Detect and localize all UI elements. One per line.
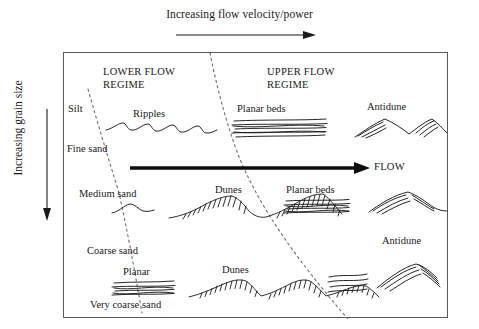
grain-size-label-medium-sand: Medium sand: [79, 188, 136, 200]
top-axis-arrow-icon: [175, 28, 320, 42]
left-axis-arrow-icon: [40, 108, 54, 224]
bedform-phase-diagram: Increasing flow velocity/power Increasin…: [0, 0, 479, 329]
bedform-label-planar-beds-1: Planar beds: [237, 103, 286, 115]
bedform-label-antidune-2: Antidune: [382, 235, 421, 247]
bedform-sketch-dunes-1: [169, 194, 342, 219]
grain-size-label-coarse-sand: Coarse sand: [87, 245, 138, 257]
flow-arrow-icon: [130, 162, 370, 174]
bedform-label-planar-3: Planar: [123, 266, 150, 278]
bedform-sketch-dunes-2: [189, 280, 379, 299]
bedform-sketch-planar-3: [112, 281, 175, 295]
bedform-label-dunes-1: Dunes: [215, 184, 242, 196]
bedform-sketch-small-ripple: [112, 204, 154, 213]
grain-size-label-very-coarse-sand: Very coarse sand: [90, 299, 161, 311]
grain-size-label-fine-sand: Fine sand: [67, 143, 108, 155]
top-axis-label: Increasing flow velocity/power: [0, 8, 479, 20]
left-axis-label-wrap: Increasing grain size: [12, 28, 24, 228]
flow-label: FLOW: [374, 161, 405, 173]
bedform-sketch-antidune-2: [369, 192, 447, 214]
diagram-canvas: [64, 53, 449, 319]
grain-size-label-silt: Silt: [68, 103, 83, 115]
upper-flow-regime-label: UPPER FLOW REGIME: [267, 65, 335, 91]
bedform-sketch-antidune-3: [377, 264, 440, 291]
bedform-label-planar-beds-2: Planar beds: [286, 184, 335, 196]
diagram-frame: LOWER FLOW REGIME UPPER FLOW REGIME Silt…: [63, 52, 448, 318]
bedform-sketch-ripples: [106, 123, 217, 133]
boundary-lower-stability: [88, 89, 142, 313]
bedform-label-ripples: Ripples: [133, 108, 165, 120]
bedform-sketch-antidune-1: [355, 119, 447, 138]
bedform-sketch-planar-beds-1: [232, 119, 327, 137]
left-axis-label: Increasing grain size: [12, 80, 24, 175]
bedform-label-antidune-1: Antidune: [367, 101, 406, 113]
bedform-sketch-planar-beds-4: [328, 274, 368, 292]
bedform-label-dunes-2: Dunes: [222, 264, 249, 276]
lower-flow-regime-label: LOWER FLOW REGIME: [103, 65, 175, 91]
